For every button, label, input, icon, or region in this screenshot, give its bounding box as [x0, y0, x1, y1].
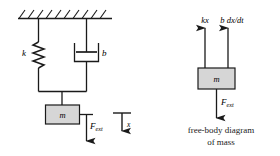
mechanical-system-figure: k b m Fext x kx b dx/dt m Fext — [0, 0, 280, 156]
mass-label-left: m — [59, 110, 65, 120]
force-subscript-right: ext — [227, 101, 234, 108]
fbd-caption-line1: free-body diagram — [188, 125, 255, 135]
applied-force-label-right: Fext — [220, 97, 234, 108]
spring-label: k — [22, 48, 27, 58]
fbd-caption-line2: of mass — [207, 137, 235, 147]
mass-label-right: m — [213, 74, 219, 84]
left-schematic-group: k b m Fext x — [18, 10, 131, 141]
right-fbd-group: kx b dx/dt m Fext free-body diagram of m… — [188, 15, 255, 147]
fixed-support — [18, 10, 112, 19]
support-hatching — [19, 10, 106, 19]
spring-coil — [33, 42, 44, 68]
displacement-label: x — [126, 120, 131, 129]
figure-container: k b m Fext x kx b dx/dt m Fext — [0, 0, 280, 156]
spring-force-label: kx — [201, 15, 209, 25]
force-subscript-left: ext — [96, 125, 103, 132]
applied-force-label-left: Fext — [89, 121, 103, 132]
damper-label: b — [102, 48, 107, 58]
damper-force-label: b dx/dt — [220, 15, 244, 25]
